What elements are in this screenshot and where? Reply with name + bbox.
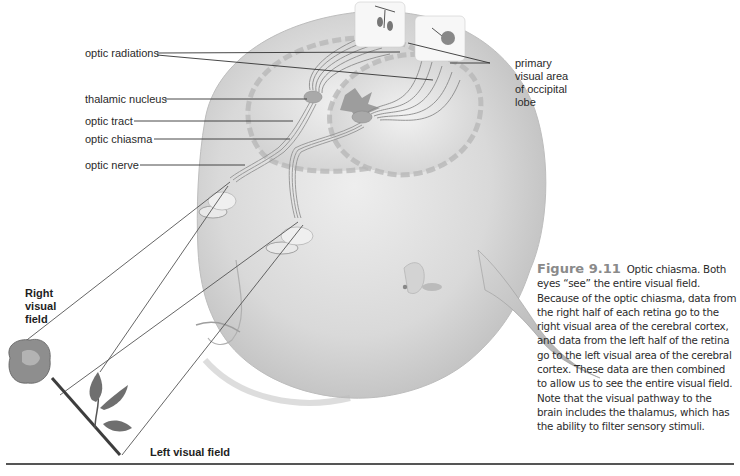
label-optic-chiasma: optic chiasma: [85, 133, 152, 146]
label-optic-radiations: optic radiations: [85, 47, 159, 60]
figure-number: Figure 9.11: [537, 261, 621, 276]
label-left-visual-field: Left visual field: [150, 446, 230, 459]
label-primary-visual-area: primary visual area of occipital lobe: [515, 57, 568, 109]
label-line: of occipital: [515, 83, 568, 96]
label-line: primary: [515, 57, 568, 70]
right-field-vignette: [415, 16, 465, 61]
label-optic-tract: optic tract: [85, 115, 133, 128]
label-line: lobe: [515, 96, 568, 109]
label-line: visual: [25, 300, 56, 313]
caption-text: Optic chiasma. Both eyes “see” the entir…: [537, 263, 736, 432]
figure-caption: Figure 9.11 Optic chiasma. Both eyes “se…: [537, 262, 737, 434]
label-optic-nerve: optic nerve: [85, 159, 139, 172]
leaf: [90, 372, 103, 402]
label-line: field: [25, 313, 56, 326]
label-line: visual area: [515, 70, 568, 83]
figure-9-11: optic radiations thalamic nucleus optic …: [0, 0, 740, 476]
hair-tie: [422, 283, 442, 291]
bottom-rule: [6, 463, 734, 465]
thalamic-nucleus: [304, 91, 322, 103]
label-line: Right: [25, 287, 56, 300]
rose: [9, 339, 132, 455]
earring: [403, 285, 407, 289]
label-thalamic-nucleus: thalamic nucleus: [85, 93, 167, 106]
label-right-visual-field: Right visual field: [25, 287, 56, 326]
